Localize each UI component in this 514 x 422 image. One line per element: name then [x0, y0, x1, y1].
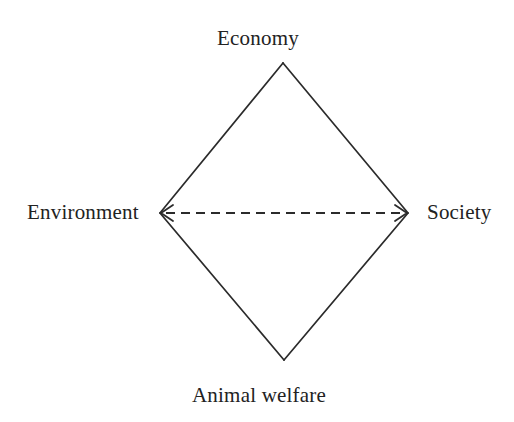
node-label-economy-text: Economy — [217, 28, 299, 49]
node-label-animal-welfare: Animal welfare — [0, 385, 514, 406]
node-label-animal-welfare-text: Animal welfare — [192, 385, 326, 406]
edge-environment-economy — [160, 63, 283, 213]
node-label-environment-text: Environment — [27, 200, 139, 224]
diagram-figure: Economy Environment Society Animal welfa… — [0, 0, 514, 422]
edge-animal-welfare-environment — [160, 213, 284, 360]
node-label-society-text: Society — [427, 200, 491, 224]
edge-society-animal-welfare — [284, 213, 408, 360]
node-label-society: Society — [427, 202, 491, 223]
node-label-economy: Economy — [0, 28, 514, 49]
edge-economy-society — [283, 63, 408, 213]
node-label-environment: Environment — [27, 202, 139, 223]
